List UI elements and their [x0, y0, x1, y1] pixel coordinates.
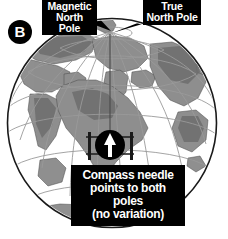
figure-panel-b: B Magnetic North Pole True North Pole Co…: [0, 0, 228, 239]
label-magnetic-north-pole: Magnetic North Pole: [42, 0, 97, 35]
figure-caption: Compass needle points to both poles (no …: [71, 165, 185, 226]
compass-bracket-right: [130, 132, 133, 160]
panel-letter-badge: B: [8, 20, 32, 44]
label-true-north-pole: True North Pole: [143, 0, 201, 25]
compass-bracket-left: [88, 132, 91, 160]
